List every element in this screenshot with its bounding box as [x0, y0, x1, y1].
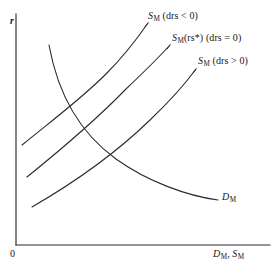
supply-curve-drs-negative	[22, 23, 148, 145]
supply-curve-label-drs-zero: SM(rs*) (drs = 0)	[172, 33, 241, 45]
money-market-figure: r 0 DM, SM SM (drs < 0) SM(rs*) (drs = 0…	[0, 0, 273, 271]
x-axis-label: DM, SM	[213, 249, 244, 261]
origin-label-text: 0	[10, 248, 15, 259]
supply-curve-label-drs-negative: SM (drs < 0)	[148, 11, 198, 23]
supply-1-subscript: M	[177, 37, 184, 45]
demand-curve	[49, 45, 218, 200]
supply-2-subscript: M	[203, 60, 210, 68]
supply-1-argument: (rs*)	[184, 32, 203, 43]
supply-0-subscript: M	[153, 15, 160, 23]
supply-curve-label-drs-positive: SM (drs > 0)	[198, 56, 248, 68]
demand-subscript: M	[229, 196, 236, 204]
supply-curve-drs-positive	[32, 69, 196, 207]
supply-1-condition: (drs = 0)	[206, 32, 241, 43]
y-axis-label-text: r	[10, 15, 14, 26]
supply-0-condition: (drs < 0)	[163, 10, 198, 21]
leader-supply-0	[145, 23, 148, 27]
demand-curve-label: DM	[222, 192, 236, 204]
x-axis-label-supply-sub: M	[237, 253, 244, 261]
leader-supply-2	[193, 69, 196, 73]
supply-curve-drs-zero	[27, 45, 170, 177]
y-axis-label: r	[10, 16, 14, 26]
origin-label: 0	[10, 249, 15, 259]
supply-2-condition: (drs > 0)	[213, 55, 248, 66]
